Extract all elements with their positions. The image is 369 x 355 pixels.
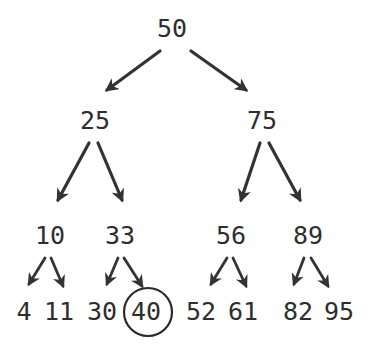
edge-50-25 <box>107 51 160 90</box>
node-40: 40 <box>131 297 161 326</box>
edge-89-82 <box>294 258 304 284</box>
node-11: 11 <box>44 297 74 326</box>
tree-nodes: 50 25 75 10 33 56 89 4 11 30 40 52 61 82… <box>16 14 354 326</box>
edge-25-10 <box>58 143 89 200</box>
edge-33-40 <box>124 258 142 286</box>
node-89: 89 <box>293 221 323 250</box>
node-10: 10 <box>35 221 65 250</box>
edges-level-2 <box>58 143 300 200</box>
edge-56-61 <box>233 258 246 286</box>
node-61: 61 <box>228 297 258 326</box>
edge-75-89 <box>269 143 300 200</box>
edge-25-33 <box>98 143 122 200</box>
node-25: 25 <box>80 106 110 135</box>
edge-89-95 <box>311 258 328 286</box>
edge-75-56 <box>241 143 260 200</box>
node-4: 4 <box>16 297 31 326</box>
edges-level-3 <box>29 258 328 286</box>
node-30: 30 <box>87 297 117 326</box>
node-75: 75 <box>247 106 277 135</box>
edge-33-30 <box>107 258 118 284</box>
edge-50-75 <box>191 51 246 90</box>
edge-56-52 <box>211 258 227 284</box>
node-50: 50 <box>157 14 187 43</box>
node-56: 56 <box>216 221 246 250</box>
node-33: 33 <box>105 221 135 250</box>
edge-10-11 <box>51 258 63 286</box>
node-95: 95 <box>324 297 354 326</box>
tree-diagram: 50 25 75 10 33 56 89 4 11 30 40 52 61 82… <box>0 0 369 355</box>
edges-level-1 <box>107 51 246 90</box>
edge-10-4 <box>29 258 45 284</box>
node-82: 82 <box>283 297 313 326</box>
node-52: 52 <box>186 297 216 326</box>
